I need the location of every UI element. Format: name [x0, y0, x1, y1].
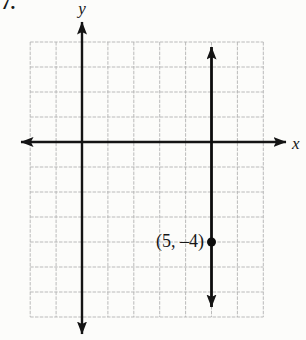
- point-dot: [207, 238, 216, 247]
- coordinate-plane: 7. y x (5, –4): [0, 0, 306, 340]
- coordinate-plane-figure: 7. y x (5, –4): [0, 0, 306, 340]
- point-label: (5, –4): [156, 231, 204, 252]
- y-axis-label: y: [76, 0, 86, 18]
- axes-layer: [21, 22, 286, 334]
- x-axis-label: x: [291, 134, 300, 153]
- problem-number: 7.: [1, 0, 15, 13]
- grid-layer: [30, 42, 263, 317]
- point-layer: [207, 238, 216, 247]
